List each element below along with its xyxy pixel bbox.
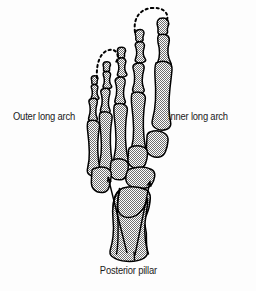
label-posterior-pillar-text: Posterior pillar	[99, 265, 156, 277]
label-outer-long-arch: Outer long arch	[13, 111, 75, 123]
bone-proximal-phalanx-5	[89, 98, 98, 121]
bone-proximal-phalanx-4	[100, 88, 110, 114]
bone-medial-cuneiform	[146, 131, 168, 157]
label-posterior-pillar: Posterior pillar	[0, 265, 256, 277]
bone-proximal-phalanx-2	[133, 63, 145, 94]
bone-navicular	[126, 167, 155, 188]
bone-distal-phalanx-4	[103, 62, 110, 72]
foot-skeleton-diagram	[0, 0, 256, 291]
bone-distal-phalanx-2	[135, 30, 144, 42]
bone-intermediate-cuneiform	[128, 146, 148, 169]
label-inner-long-arch: Inner long arch	[168, 111, 228, 123]
bone-proximal-phalanx-3	[115, 77, 126, 105]
heel-detail-line-3	[134, 252, 135, 260]
